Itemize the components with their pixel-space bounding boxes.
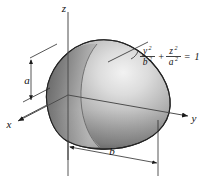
x-axis-label: x <box>6 118 12 130</box>
equation-denominator-2-exponent: 2 <box>175 56 178 62</box>
dimension-a-ext-top <box>30 44 57 58</box>
equation-equals-sign: = <box>184 51 191 62</box>
equation-numerator-1-exponent: 2 <box>149 45 152 51</box>
y-axis-label: y <box>191 112 197 124</box>
equation-right-hand-side: 1 <box>195 51 200 62</box>
dimension-a-label: a <box>24 74 30 86</box>
equation-denominator-2: a <box>169 57 174 67</box>
figure-canvas: z x y a b y 2 b 2 + z 2 a 2 <box>0 0 202 182</box>
dimension-b-label: b <box>109 145 115 157</box>
equation-denominator-1: b <box>143 57 148 67</box>
equation-plus-sign: + <box>158 51 165 62</box>
equation-numerator-1: y <box>142 46 148 56</box>
equation-numerator-2-exponent: 2 <box>175 45 178 51</box>
solid-of-elliptical-cross-sections-diagram: z x y a b y 2 b 2 + z 2 a 2 <box>0 0 202 182</box>
z-axis-label: z <box>61 2 67 14</box>
equation-numerator-2: z <box>168 46 173 56</box>
equation-denominator-1-exponent: 2 <box>149 56 152 62</box>
